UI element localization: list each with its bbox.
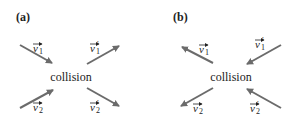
svg-text:v: v (193, 102, 198, 114)
label-v1: v 1 (199, 43, 209, 57)
svg-text:v: v (90, 101, 95, 113)
svg-text:′: ′ (262, 36, 264, 45)
panel-a-label: (a) (16, 10, 30, 24)
panel-b: (b) collision v 1 v 1 ′ v 2 v 2 ′ (173, 10, 281, 116)
svg-text:′: ′ (97, 99, 99, 108)
label-v1-prime: v 1 ′ (90, 40, 100, 56)
collision-label: collision (210, 70, 251, 84)
label-v2: v 2 (193, 102, 203, 116)
svg-text:1: 1 (39, 47, 43, 56)
svg-text:v: v (33, 42, 38, 54)
svg-text:1: 1 (205, 48, 209, 57)
svg-text:2: 2 (199, 107, 203, 116)
panel-a: (a) collision v 1 v 1 ′ v 2 v 2 ′ (16, 10, 119, 115)
svg-text:v: v (255, 38, 260, 50)
svg-text:v: v (199, 43, 204, 55)
label-v1-prime: v 1 ′ (255, 36, 265, 52)
svg-text:′: ′ (97, 40, 99, 49)
svg-text:v: v (90, 42, 95, 54)
label-v2: v 2 (33, 101, 43, 115)
label-v2-prime: v 2 ′ (90, 99, 100, 115)
collision-label: collision (50, 70, 91, 84)
label-v2-prime: v 2 ′ (250, 100, 260, 116)
svg-text:v: v (250, 102, 255, 114)
svg-text:2: 2 (39, 106, 43, 115)
panel-b-label: (b) (173, 10, 188, 24)
svg-text:′: ′ (257, 100, 259, 109)
label-v1: v 1 (33, 42, 43, 56)
svg-text:v: v (33, 101, 38, 113)
collision-diagram: (a) collision v 1 v 1 ′ v 2 v 2 ′ (0, 0, 296, 119)
